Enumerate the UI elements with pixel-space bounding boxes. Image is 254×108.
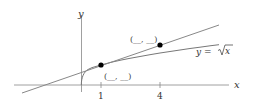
y-axis-label: y: [77, 8, 84, 19]
secant-line: [22, 25, 219, 93]
curve-label: y = x: [195, 45, 233, 57]
tick-label-4: 4: [157, 91, 163, 101]
point-at-4: [157, 42, 162, 47]
sqrt-secant-diagram: y x 1 4 (__, __) (__, __) y = x: [0, 0, 254, 108]
point-label-4: (__, __): [130, 35, 157, 44]
point-label-1: (__, __): [104, 72, 131, 81]
tick-label-1: 1: [98, 91, 104, 101]
point-at-1: [98, 62, 103, 67]
x-axis-label: x: [234, 79, 240, 90]
svg-text:y =: y =: [195, 47, 212, 57]
svg-text:x: x: [225, 46, 230, 56]
